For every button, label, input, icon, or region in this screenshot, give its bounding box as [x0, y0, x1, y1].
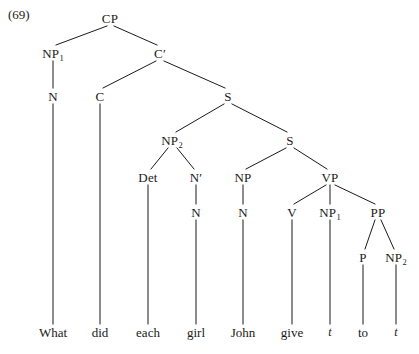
tree-node-pp: PP	[371, 206, 386, 219]
terminal-t-give: give	[281, 326, 303, 339]
terminal-t-did: did	[92, 326, 109, 339]
tree-node-n_a: N	[48, 90, 58, 103]
tree-node-np2: NP2	[161, 134, 182, 147]
tree-branch	[294, 148, 327, 169]
tree-branch	[177, 148, 194, 169]
tree-node-np2b: NP2	[385, 251, 406, 264]
tree-branch	[103, 61, 156, 88]
tree-node-s2: S	[286, 134, 293, 147]
tree-branch	[246, 148, 286, 169]
terminal-t-each: each	[136, 326, 160, 339]
tree-branch	[164, 61, 225, 88]
syntax-tree-figure: (69) CPNP1C′NCSNP2SDetN′NPVPNNVNP1PPPNP2…	[0, 0, 419, 354]
tree-node-np1b: NP1	[319, 206, 340, 219]
tree-node-n_c: N	[238, 206, 248, 219]
tree-branch	[365, 220, 375, 249]
node-subscript: 1	[60, 52, 64, 62]
node-subscript: 2	[403, 256, 407, 266]
tree-node-nbar: N′	[190, 171, 203, 184]
terminal-t-tr1: t	[328, 326, 331, 338]
tree-branch	[151, 148, 168, 169]
tree-node-c: C	[96, 90, 105, 103]
tree-node-p: P	[359, 251, 366, 264]
tree-node-vp: VP	[321, 171, 338, 184]
terminal-t-john: John	[231, 326, 256, 339]
terminal-t-tr2: t	[394, 326, 397, 338]
tree-node-v: V	[287, 206, 297, 219]
tree-node-det: Det	[138, 171, 157, 184]
tree-branch	[176, 104, 224, 132]
terminal-t-what: What	[39, 326, 67, 339]
tree-node-np1: NP1	[42, 47, 63, 60]
tree-node-s1: S	[224, 90, 231, 103]
terminal-t-girl: girl	[187, 326, 205, 339]
tree-branch	[114, 26, 157, 45]
tree-branch	[381, 220, 394, 249]
tree-branch	[232, 104, 287, 132]
tree-node-cbar: C′	[154, 47, 166, 60]
tree-node-np_b: NP	[234, 171, 251, 184]
tree-branch	[335, 185, 375, 204]
terminal-t-to: to	[358, 326, 368, 339]
node-subscript: 1	[337, 211, 341, 221]
tree-node-cp: CP	[102, 12, 118, 25]
node-subscript: 2	[179, 139, 183, 149]
tree-branch	[56, 26, 107, 45]
tree-branch	[294, 185, 326, 204]
tree-node-n_b: N	[191, 206, 201, 219]
